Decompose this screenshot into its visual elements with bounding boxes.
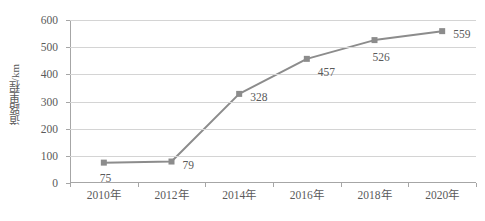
- y-tick-label: 500: [41, 41, 58, 53]
- series-line: [104, 31, 442, 162]
- y-tick-label: 0: [52, 177, 58, 189]
- y-tick-mark: [66, 20, 70, 21]
- y-tick-label: 600: [41, 14, 58, 26]
- data-point-marker: [372, 37, 378, 43]
- x-tick-mark: [476, 183, 477, 187]
- line-chart: 道路里程/km 0100200300400500600 757932845752…: [0, 0, 485, 221]
- gridline: [70, 129, 476, 130]
- x-tick-label: 2014年: [222, 186, 256, 202]
- y-tick-mark: [66, 47, 70, 48]
- y-tick-label: 200: [41, 123, 58, 135]
- x-tick-label: 2020年: [425, 186, 459, 202]
- x-tick-label: 2010年: [87, 186, 121, 202]
- gridline: [70, 20, 476, 21]
- gridline: [70, 47, 476, 48]
- x-tick-label: 2012年: [155, 186, 189, 202]
- y-tick-mark: [66, 74, 70, 75]
- y-axis-tick-labels: 0100200300400500600: [28, 20, 64, 183]
- y-axis-title: 道路里程/km: [2, 0, 28, 190]
- y-tick-label: 100: [41, 150, 58, 162]
- gridline: [70, 74, 476, 75]
- gridline: [70, 156, 476, 157]
- x-tick-label: 2016年: [290, 186, 324, 202]
- y-tick-label: 300: [41, 96, 58, 108]
- data-point-marker: [304, 56, 310, 62]
- data-point-marker: [439, 28, 445, 34]
- y-tick-mark: [66, 156, 70, 157]
- y-tick-mark: [66, 102, 70, 103]
- gridline: [70, 102, 476, 103]
- y-tick-mark: [66, 129, 70, 130]
- x-axis-tick-labels: 2010年2012年2014年2016年2018年2020年: [70, 186, 476, 208]
- plot-area: 7579328457526559: [70, 20, 476, 183]
- y-axis-title-text: 道路里程/km: [10, 64, 21, 125]
- x-tick-label: 2018年: [358, 186, 392, 202]
- y-tick-label: 400: [41, 68, 58, 80]
- data-point-marker: [101, 160, 107, 166]
- data-point-marker: [236, 91, 242, 97]
- data-point-marker: [169, 159, 175, 165]
